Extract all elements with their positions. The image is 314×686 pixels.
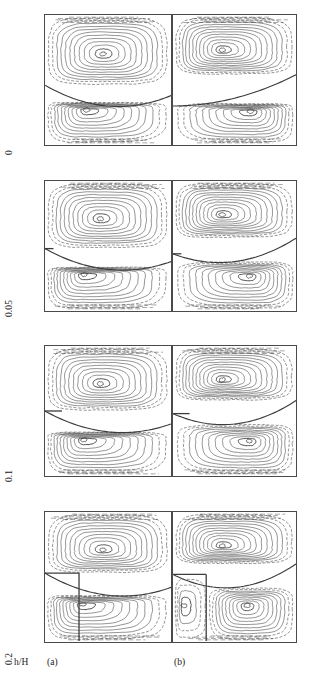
row-label-1: 0.05 (4, 300, 14, 317)
column-label-a: (a) (47, 657, 58, 667)
contour-panel-r3-a (44, 511, 172, 643)
contour-panel-r0-b (172, 14, 297, 146)
contour-panel-r1-a (44, 180, 172, 312)
axis-title-h-over-H: h/H (14, 657, 28, 667)
figure-root: 0 0.05 0.1 0.2 h/H (a) (b) (0, 0, 314, 686)
panel-row-3 (44, 511, 297, 643)
contour-panel-r2-b (172, 345, 297, 477)
panel-row-2 (44, 345, 297, 477)
panel-row-1 (44, 180, 297, 312)
contour-panel-r0-a (44, 14, 172, 146)
contour-panel-r2-a (44, 345, 172, 477)
contour-panel-r3-b (172, 511, 297, 643)
row-label-2: 0.1 (4, 470, 14, 482)
contour-panel-r1-b (172, 180, 297, 312)
row-label-3: 0.2 (4, 653, 14, 665)
column-label-b: (b) (174, 657, 185, 667)
row-label-0: 0 (4, 150, 14, 155)
panel-row-0 (44, 14, 297, 146)
